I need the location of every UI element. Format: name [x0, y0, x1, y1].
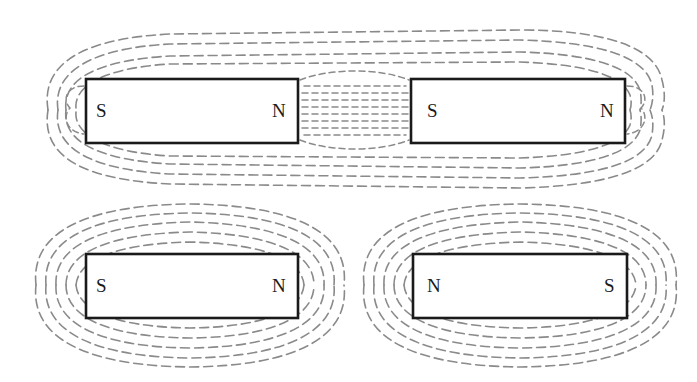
bottom-left-magnet: S N	[86, 254, 298, 318]
pole-label: S	[604, 275, 615, 296]
pole-label: S	[96, 275, 107, 296]
top-magnet-2: S N	[411, 79, 625, 143]
pole-label: S	[427, 100, 438, 121]
magnetic-field-diagram: S N S N S N N S	[0, 0, 697, 382]
top-magnet-1: S N	[86, 79, 298, 143]
pole-label: N	[427, 275, 441, 296]
pole-label: N	[272, 275, 286, 296]
pole-label: S	[96, 100, 107, 121]
pole-label: N	[600, 100, 614, 121]
bottom-right-magnet: N S	[413, 254, 627, 318]
top-panel-gap-field	[300, 71, 409, 149]
pole-label: N	[272, 100, 286, 121]
